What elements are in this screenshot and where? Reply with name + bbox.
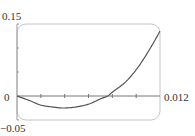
plot-frame xyxy=(17,24,160,120)
axis-ticks xyxy=(17,24,136,120)
y-min-label: −0.05 xyxy=(0,122,25,134)
y-zero-label: 0 xyxy=(4,91,10,103)
chart-canvas xyxy=(0,0,195,136)
y-max-label: 0.15 xyxy=(2,10,21,22)
x-max-label: 0.012 xyxy=(164,91,189,103)
